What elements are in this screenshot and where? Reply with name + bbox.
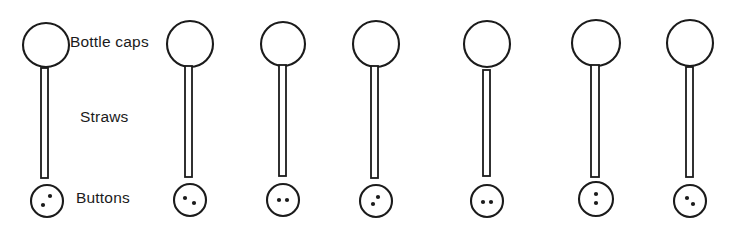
straw-4: [371, 66, 378, 178]
button-hole-3-1: [277, 198, 281, 202]
straw-2: [185, 66, 192, 177]
bottle-cap-straw-button-diagram: Bottle capsStrawsButtons: [0, 0, 747, 232]
button-hole-6-1: [594, 192, 598, 196]
button-rim-3: [267, 184, 299, 216]
straw-3: [279, 65, 286, 176]
button-2: [174, 184, 206, 216]
bottle-cap-2: [167, 21, 213, 67]
button-rim-1: [31, 185, 63, 217]
button-5: [471, 185, 503, 217]
straw-7: [686, 67, 693, 177]
diagram-canvas: Bottle capsStrawsButtons: [0, 0, 747, 232]
button-hole-2-1: [183, 196, 187, 200]
button-hole-2-2: [192, 201, 196, 205]
button-rim-2: [174, 184, 206, 216]
button-6: [579, 182, 613, 216]
bottle-cap-3: [261, 22, 305, 66]
button-4: [360, 185, 392, 217]
bottle-cap-6: [572, 20, 620, 66]
button-rim-4: [360, 185, 392, 217]
button-hole-7-2: [691, 202, 695, 206]
button-rim-7: [674, 185, 706, 217]
button-1: [31, 185, 63, 217]
straw-5: [483, 70, 490, 176]
button-rim-5: [471, 185, 503, 217]
button-hole-5-2: [489, 200, 493, 204]
button-rim-6: [579, 182, 613, 216]
straw-1: [41, 68, 48, 178]
button-hole-1-1: [48, 194, 52, 198]
bottle-cap-7: [667, 20, 713, 66]
button-3: [267, 184, 299, 216]
bottle-cap-1: [23, 23, 69, 67]
button-hole-7-1: [685, 196, 689, 200]
button-hole-5-1: [481, 200, 485, 204]
button-hole-6-2: [594, 201, 598, 205]
bottle-cap-5: [464, 21, 510, 67]
button-7: [674, 185, 706, 217]
bottle-cap-4: [353, 21, 399, 67]
label-bottle-caps: Bottle caps: [70, 33, 149, 50]
button-hole-4-1: [376, 195, 380, 199]
button-hole-4-2: [371, 202, 375, 206]
button-hole-1-2: [41, 203, 45, 207]
button-hole-3-2: [285, 198, 289, 202]
label-buttons: Buttons: [76, 189, 130, 206]
straw-6: [591, 65, 599, 177]
label-straws: Straws: [80, 108, 129, 125]
